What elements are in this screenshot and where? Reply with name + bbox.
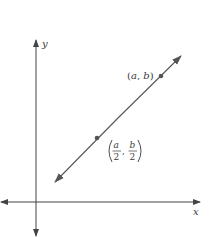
point-a-b <box>159 74 164 79</box>
coordinate-diagram: y x (a, b) a 2 , b 2 <box>0 0 210 237</box>
x-axis-label: x <box>193 206 199 217</box>
point-midpoint <box>95 136 100 141</box>
y-numerator: b <box>130 140 136 150</box>
point-a-b-label: (a, b) <box>127 70 154 81</box>
x-denominator: 2 <box>114 152 120 162</box>
y-denominator: 2 <box>130 152 136 162</box>
right-paren <box>138 140 141 162</box>
y-axis-label: y <box>41 38 48 49</box>
left-paren <box>109 140 112 162</box>
x-numerator: a <box>114 140 119 150</box>
separator: , <box>122 146 125 156</box>
svg-text:(a, b): (a, b) <box>127 70 154 81</box>
midpoint-label: a 2 , b 2 <box>109 140 141 162</box>
